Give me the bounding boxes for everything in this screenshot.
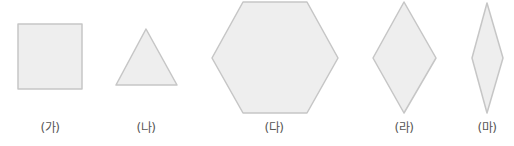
- square-shape: [18, 24, 82, 89]
- label-ma: (마): [478, 118, 497, 135]
- label-ra: (라): [395, 118, 414, 135]
- triangle-shape: [116, 29, 177, 85]
- label-na: (나): [137, 118, 156, 135]
- label-da: (다): [265, 118, 284, 135]
- hexagon-shape: [212, 2, 338, 113]
- label-ga: (가): [41, 118, 60, 135]
- narrow-rhombus-shape: [472, 3, 503, 113]
- shapes-figure: [0, 0, 514, 146]
- rhombus-shape: [373, 2, 436, 113]
